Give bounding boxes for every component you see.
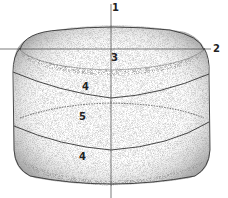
region-3-label: 3 [111, 53, 118, 63]
cylinder-diagram [0, 0, 228, 198]
region-5-label: 5 [79, 112, 86, 122]
body-shading [14, 25, 210, 186]
region-4-upper-label: 4 [82, 82, 89, 92]
axis-1-label: 1 [112, 3, 119, 13]
region-4-lower-label: 4 [79, 152, 86, 162]
axis-2-label: 2 [213, 44, 220, 54]
